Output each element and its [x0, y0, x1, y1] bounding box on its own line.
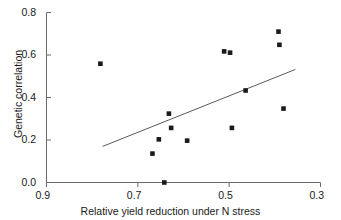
- data-point: [157, 137, 162, 142]
- x-axis-ticks: [47, 183, 321, 188]
- data-point: [150, 151, 155, 156]
- x-tick-label: 0.7: [127, 189, 142, 201]
- data-point: [228, 50, 233, 55]
- regression-line: [103, 69, 296, 146]
- data-point: [162, 180, 167, 185]
- x-axis-label: Relative yield reduction under N stress: [0, 205, 341, 217]
- data-points-group: [98, 29, 286, 184]
- data-point: [281, 106, 286, 111]
- scatter-plot-figure: 0.90.70.50.3 0.00.20.40.60.8 Relative yi…: [0, 0, 341, 220]
- y-axis-label: Genetic correlation: [12, 49, 24, 137]
- data-point: [277, 43, 282, 48]
- data-point: [98, 61, 103, 66]
- y-tick-label: 0.0: [22, 176, 37, 188]
- x-tick-label: 0.9: [36, 189, 51, 201]
- data-point: [169, 126, 174, 131]
- y-tick-label: 0.8: [22, 6, 37, 18]
- axis-spines: [47, 13, 321, 183]
- data-point: [185, 138, 190, 143]
- data-point: [243, 88, 248, 93]
- y-axis-ticks: [47, 13, 52, 183]
- x-tick-label: 0.3: [310, 189, 325, 201]
- data-point: [230, 126, 235, 131]
- x-tick-label: 0.5: [218, 189, 233, 201]
- plot-canvas: [0, 0, 341, 220]
- data-point: [167, 111, 172, 116]
- axes-group: [47, 13, 321, 188]
- data-point: [222, 49, 227, 54]
- data-point: [276, 29, 281, 34]
